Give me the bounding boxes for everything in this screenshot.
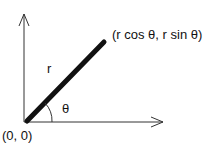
angle-label: θ <box>62 102 69 115</box>
point-label: (r cos θ, r sin θ) <box>112 28 202 41</box>
polar-diagram <box>0 0 208 149</box>
x-axis <box>24 117 163 127</box>
radius-label: r <box>47 62 51 75</box>
angle-arc <box>45 103 52 122</box>
origin-label: (0, 0) <box>2 129 32 142</box>
y-axis <box>19 14 29 122</box>
